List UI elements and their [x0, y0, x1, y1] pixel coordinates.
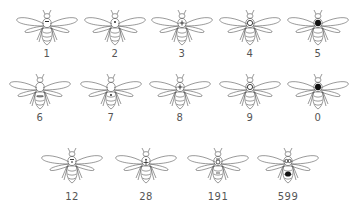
bee-icon [217, 70, 283, 118]
bee-icon [147, 70, 213, 118]
bee-drawing-2 [82, 6, 148, 54]
bee-drawing-1 [14, 6, 80, 54]
bee-icon [113, 144, 179, 192]
bee-number-label: 191 [198, 191, 238, 202]
bee-drawing-5 [285, 6, 351, 54]
bee-number-label: 12 [52, 191, 92, 202]
bee-drawing-6 [7, 70, 73, 118]
bee-number-label: 5 [298, 48, 338, 59]
bee-drawing-0 [285, 70, 351, 118]
bee-icon [7, 70, 73, 118]
bee-drawing-12 [39, 144, 105, 192]
bee-icon [185, 144, 251, 192]
bee-icon [39, 144, 105, 192]
bee-icon [285, 6, 351, 54]
bee-icon [285, 70, 351, 118]
bee-number-label: 7 [91, 112, 131, 123]
bee-icon [78, 70, 144, 118]
bee-icon [14, 6, 80, 54]
bee-drawing-191 [185, 144, 251, 192]
bee-drawing-7 [78, 70, 144, 118]
bee-number-label: 9 [230, 112, 270, 123]
bee-icon [82, 6, 148, 54]
bee-number-label: 1 [27, 48, 67, 59]
bee-icon [217, 6, 283, 54]
bee-number-label: 2 [95, 48, 135, 59]
bee-number-label: 6 [20, 112, 60, 123]
bee-number-label: 3 [162, 48, 202, 59]
bee-drawing-8 [147, 70, 213, 118]
bee-number-label: 599 [268, 191, 308, 202]
bee-icon [149, 6, 215, 54]
bee-drawing-28 [113, 144, 179, 192]
bee-number-label: 0 [298, 112, 338, 123]
bee-drawing-599 [255, 144, 321, 192]
bee-icon [255, 144, 321, 192]
bee-number-label: 8 [160, 112, 200, 123]
bee-number-label: 4 [230, 48, 270, 59]
bee-drawing-4 [217, 6, 283, 54]
bee-number-label: 28 [126, 191, 166, 202]
bee-drawing-9 [217, 70, 283, 118]
bee-drawing-3 [149, 6, 215, 54]
